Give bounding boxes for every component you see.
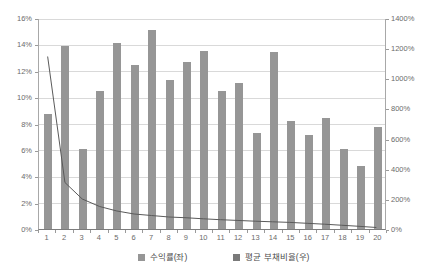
line-path	[48, 57, 377, 228]
x-axis-tick	[160, 230, 161, 233]
legend-item-debt-ratio[interactable]: 평균 부채비율(우)	[233, 252, 309, 262]
y-axis-left-tick-label: 8%	[0, 121, 32, 129]
y-axis-right-tick	[386, 170, 389, 171]
x-axis-tick-label: 20	[367, 233, 387, 242]
x-axis-tick	[142, 230, 143, 233]
y-axis-left-tick-label: 10%	[0, 94, 32, 102]
line-series-debt-ratio	[39, 19, 385, 229]
x-axis-tick	[282, 230, 283, 233]
y-axis-right-tick	[386, 79, 389, 80]
x-axis-tick	[108, 230, 109, 233]
chart-container: 0%2%4%6%8%10%12%14%16% 0%200%400%600%800…	[0, 0, 447, 278]
chart-legend: 수익률(좌) 평균 부채비율(우)	[0, 252, 447, 262]
legend-swatch-revenue	[138, 254, 145, 261]
x-axis-tick	[177, 230, 178, 233]
y-axis-right-tick-label: 1400%	[391, 15, 435, 23]
x-axis-tick	[229, 230, 230, 233]
x-axis-tick	[125, 230, 126, 233]
y-axis-right-tick	[386, 200, 389, 201]
y-axis-left-tick-label: 0%	[0, 226, 32, 234]
x-axis-tick	[38, 230, 39, 233]
x-axis-tick	[351, 230, 352, 233]
y-axis-left-tick-label: 16%	[0, 15, 32, 23]
legend-item-revenue[interactable]: 수익률(좌)	[138, 252, 188, 262]
y-axis-right-tick-label: 1200%	[391, 45, 435, 53]
x-axis-tick	[386, 230, 387, 233]
x-axis-tick	[299, 230, 300, 233]
x-axis-tick	[195, 230, 196, 233]
x-axis-tick	[90, 230, 91, 233]
x-axis-tick	[55, 230, 56, 233]
y-axis-right-tick-label: 800%	[391, 105, 435, 113]
y-axis-right-tick	[386, 140, 389, 141]
plot-area	[38, 19, 386, 230]
y-axis-right-tick	[386, 19, 389, 20]
y-axis-left-tick-label: 14%	[0, 41, 32, 49]
legend-label-debt-ratio: 평균 부채비율(우)	[245, 252, 309, 262]
legend-swatch-debt	[233, 254, 240, 261]
y-axis-right-tick-label: 200%	[391, 196, 435, 204]
y-axis-right-tick-label: 600%	[391, 136, 435, 144]
y-axis-left-tick-label: 12%	[0, 68, 32, 76]
y-axis-right-tick-label: 1000%	[391, 75, 435, 83]
x-axis-tick	[334, 230, 335, 233]
x-axis-tick	[369, 230, 370, 233]
x-axis-tick	[247, 230, 248, 233]
y-axis-left-tick-label: 6%	[0, 147, 32, 155]
x-axis-tick	[264, 230, 265, 233]
legend-label-revenue: 수익률(좌)	[150, 252, 188, 262]
y-axis-left-tick-label: 4%	[0, 173, 32, 181]
x-axis-tick	[73, 230, 74, 233]
y-axis-right-tick	[386, 49, 389, 50]
y-axis-left-tick-label: 2%	[0, 200, 32, 208]
y-axis-right-tick-label: 0%	[391, 226, 435, 234]
x-axis-tick	[316, 230, 317, 233]
y-axis-right-tick	[386, 109, 389, 110]
y-axis-right-tick-label: 400%	[391, 166, 435, 174]
x-axis-tick	[212, 230, 213, 233]
